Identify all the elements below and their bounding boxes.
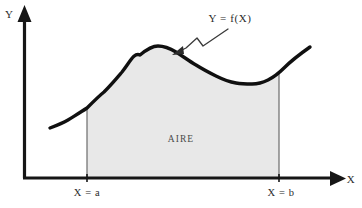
function-area-diagram: Y X Y = f(X) X = a X = b AIRE [0, 0, 362, 208]
y-axis-label: Y [5, 8, 14, 20]
x-axis-label: X [347, 173, 356, 185]
y-axis-arrowhead [18, 5, 32, 22]
curve-equation-label: Y = f(X) [209, 12, 252, 25]
tick-label-upper-bound: X = b [267, 187, 294, 198]
area-region-label: AIRE [168, 134, 195, 144]
x-axis-arrowhead [330, 171, 346, 186]
figure-container: Y X Y = f(X) X = a X = b AIRE [0, 0, 362, 208]
shaded-area-region [87, 46, 279, 178]
annotation-leader-line [176, 29, 228, 53]
tick-label-lower-bound: X = a [74, 187, 100, 198]
